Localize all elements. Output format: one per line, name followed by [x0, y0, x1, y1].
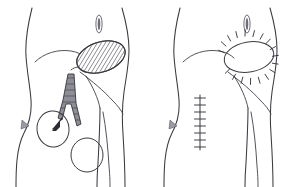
- right-panel-region[interactable]: [148, 0, 296, 187]
- left-panel-region[interactable]: [0, 0, 148, 187]
- figure-root: [0, 0, 296, 187]
